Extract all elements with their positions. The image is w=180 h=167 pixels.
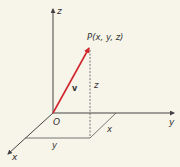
origin-label: O [53, 117, 60, 127]
x-axis-label: x [11, 152, 18, 162]
point-label: P(x, y, z) [87, 32, 123, 42]
y-length-label: y [51, 140, 58, 150]
x-projection-line [90, 113, 116, 138]
x-axis [8, 113, 53, 154]
z-axis-label: z [56, 6, 62, 16]
vector-label: v [72, 84, 78, 93]
z-height-label: z [93, 80, 99, 90]
x-length-label: x [106, 124, 113, 134]
vector-v [53, 48, 89, 113]
y-axis-label: y [168, 117, 175, 127]
vector-diagram: z y x O P(x, y, z) v z x y [0, 0, 180, 167]
